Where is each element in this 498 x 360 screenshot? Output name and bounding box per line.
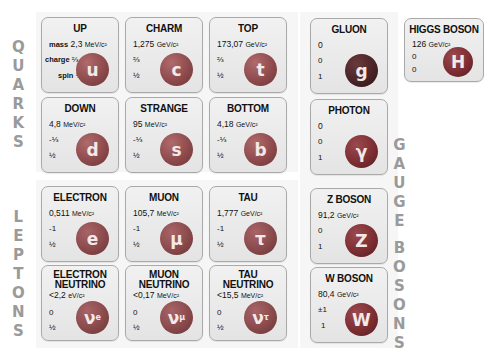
particle-name: ELECTRONNEUTRINO: [42, 270, 118, 290]
mass-value: 126: [412, 39, 426, 49]
charge-value: 0: [318, 226, 322, 235]
spin-value: 1: [318, 153, 322, 162]
mass-unit: MeV/c²: [72, 210, 94, 217]
mass-value: 173,07: [217, 39, 243, 49]
particle-name: TOP: [210, 24, 286, 34]
spin-value: ½: [133, 151, 140, 160]
spin-value: ½: [133, 323, 140, 332]
mass-value: <2,2: [49, 290, 66, 300]
spin-value: ½: [49, 151, 56, 160]
particle-card-electron-neutrino[interactable]: ELECTRONNEUTRINO <2,2 eV/c² 0 ½ νe: [41, 265, 119, 341]
mass-unit: GeV/c²: [241, 210, 263, 217]
mass-unit: GeV/c²: [236, 121, 258, 128]
mass-value: 0: [318, 40, 323, 50]
mass-unit: MeV/c²: [145, 121, 167, 128]
mass-unit: GeV/c²: [245, 41, 267, 48]
particle-name: GLUON: [311, 25, 387, 35]
mass-unit: GeV/c²: [157, 41, 179, 48]
charge-value: 0: [133, 308, 137, 317]
spin-value: ½: [217, 151, 224, 160]
particle-card-tau-neutrino[interactable]: TAUNEUTRINO <15,5 MeV/c² 0 ½ ντ: [209, 265, 287, 341]
spin-label: spin: [58, 71, 73, 80]
charge-value: ⅔: [217, 55, 224, 64]
particle-card-electron[interactable]: ELECTRON 0,511 MeV/c² -1 ½ e: [41, 186, 119, 262]
mass-value: 4,8: [49, 119, 61, 129]
particle-symbol-icon: Z: [345, 224, 378, 257]
mass-value: 4,18: [217, 119, 234, 129]
particle-symbol-icon: H: [443, 47, 473, 77]
spin-value: ½: [133, 240, 140, 249]
mass-unit: GeV/c²: [429, 41, 451, 48]
spin-value: ½: [133, 71, 140, 80]
particle-symbol-icon: γ: [345, 135, 378, 168]
particle-card-up[interactable]: UP mass 2,3 MeV/c² charge ⅔ spin ½ u: [41, 17, 119, 93]
particle-name: BOTTOM: [210, 104, 286, 114]
charge-value: -⅓: [133, 135, 142, 144]
mass-unit: eV/c²: [68, 292, 84, 299]
particle-name: ELECTRON: [42, 193, 118, 203]
particle-card-w-boson[interactable]: W BOSON 80,4 GeV/c² ±1 1 W: [310, 267, 388, 343]
mass-unit: MeV/c²: [157, 292, 179, 299]
spin-value: ½: [217, 71, 224, 80]
charge-value: -1: [217, 224, 224, 233]
particle-card-muon[interactable]: MUON 105,7 MeV/c² -1 ½ μ: [125, 186, 203, 262]
charge-label: charge: [45, 55, 70, 64]
mass-value: 95: [133, 119, 142, 129]
gauge-bosons-label: GAUGEBOSONS: [393, 136, 406, 353]
particle-name: DOWN: [42, 104, 118, 114]
charge-value: -1: [49, 224, 56, 233]
particle-symbol-icon: νμ: [160, 301, 193, 334]
mass-value: 91,2: [318, 210, 335, 220]
charge-value: 0: [49, 308, 53, 317]
charge-value: 0: [318, 137, 322, 146]
particle-card-higgs-boson[interactable]: HIGGS BOSON 126 GeV/c² 0 0 H: [404, 18, 484, 82]
particle-card-photon[interactable]: PHOTON 0 0 1 γ: [310, 99, 388, 175]
particle-symbol-icon: t: [244, 53, 277, 86]
particle-name: MUON: [126, 193, 202, 203]
particle-symbol-icon: W: [345, 303, 378, 336]
spin-value: ½: [217, 323, 224, 332]
mass-unit: GeV/c²: [337, 212, 359, 219]
particle-symbol-icon: τ: [244, 222, 277, 255]
particle-name: W BOSON: [311, 274, 387, 284]
mass-value: <15,5: [217, 290, 239, 300]
particle-name: STRANGE: [126, 104, 202, 114]
particle-symbol-icon: g: [345, 54, 378, 87]
mass-unit: MeV/c²: [85, 41, 107, 48]
particle-name: PHOTON: [311, 106, 387, 116]
mass-unit: MeV/c²: [241, 292, 263, 299]
charge-value: -1: [133, 224, 140, 233]
particle-card-down[interactable]: DOWN 4,8 MeV/c² -⅓ ½ d: [41, 97, 119, 173]
mass-value: 0,511: [49, 208, 70, 218]
particle-card-z-boson[interactable]: Z BOSON 91,2 GeV/c² 0 1 Z: [310, 188, 388, 264]
particle-name: HIGGS BOSON: [405, 25, 483, 35]
charge-value: -⅓: [49, 135, 58, 144]
particle-symbol-icon: d: [76, 133, 109, 166]
spin-value: 0: [412, 65, 416, 74]
particle-symbol-icon: ντ: [244, 301, 277, 334]
mass-value: 1,777: [217, 208, 238, 218]
particle-symbol-icon: μ: [160, 222, 193, 255]
particle-card-bottom[interactable]: BOTTOM 4,18 GeV/c² -⅓ ½ b: [209, 97, 287, 173]
particle-card-strange[interactable]: STRANGE 95 MeV/c² -⅓ ½ s: [125, 97, 203, 173]
mass-value: 2,3: [71, 39, 83, 49]
particle-card-tau[interactable]: TAU 1,777 GeV/c² -1 ½ τ: [209, 186, 287, 262]
mass-value: 0: [318, 121, 323, 131]
mass-value: 80,4: [318, 289, 335, 299]
particle-card-gluon[interactable]: GLUON 0 0 1 g: [310, 18, 388, 94]
charge-value: 0: [412, 52, 416, 61]
particle-symbol-icon: e: [76, 222, 109, 255]
spin-value: ½: [49, 240, 56, 249]
mass-unit: GeV/c²: [337, 291, 359, 298]
spin-value: 1: [321, 321, 325, 330]
leptons-label: LEPTONS: [12, 208, 25, 341]
spin-value: 1: [318, 242, 322, 251]
particle-card-top[interactable]: TOP 173,07 GeV/c² ⅔ ½ t: [209, 17, 287, 93]
particle-card-charm[interactable]: CHARM 1,275 GeV/c² ⅔ ½ c: [125, 17, 203, 93]
particle-name: TAUNEUTRINO: [210, 270, 286, 290]
particle-name: Z BOSON: [311, 195, 387, 205]
spin-value: ½: [217, 240, 224, 249]
particle-card-muon-neutrino[interactable]: MUONNEUTRINO <0,17 MeV/c² 0 ½ νμ: [125, 265, 203, 341]
mass-value: <0,17: [133, 290, 155, 300]
charge-value: ±1: [318, 305, 327, 314]
